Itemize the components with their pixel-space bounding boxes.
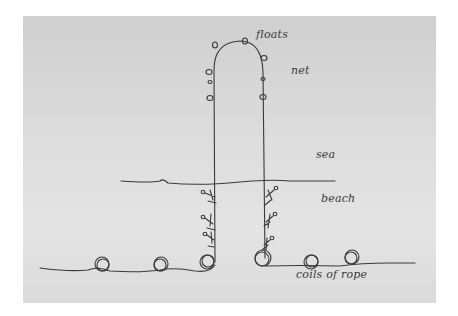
- stick-figure-icons-left: [201, 190, 216, 247]
- floats-label: floats: [256, 28, 288, 41]
- beach-label: beach: [321, 192, 355, 205]
- net-label: net: [291, 64, 310, 77]
- sea-label: sea: [316, 148, 335, 161]
- sketch-drawing: [0, 0, 458, 316]
- sea-shoreline: [121, 180, 335, 184]
- float-icons: [206, 38, 267, 101]
- net-outline: [214, 41, 265, 262]
- coils-of-rope-label: coils of rope: [296, 268, 367, 281]
